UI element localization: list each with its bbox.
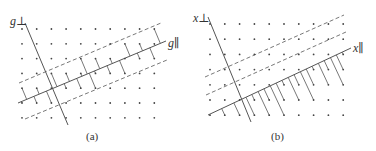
- projection-connector: [37, 88, 39, 94]
- lattice-point: [298, 38, 300, 40]
- lattice-point: [36, 28, 38, 30]
- projection-connector: [270, 86, 284, 115]
- lattice-point: [342, 54, 344, 56]
- lattice-point: [21, 58, 23, 60]
- panel-a-perp-axis-label: g⊥: [10, 14, 27, 28]
- lattice-point: [239, 23, 241, 25]
- projection-connector: [51, 73, 57, 86]
- lattice-point: [51, 102, 53, 104]
- lattice-point: [51, 73, 53, 75]
- panel-b-perp-axis-label: x⊥: [192, 11, 210, 25]
- lattice-point: [36, 102, 38, 104]
- lattice-point: [239, 84, 241, 86]
- lattice-point: [95, 73, 97, 75]
- perpendicular-axis: [208, 17, 251, 122]
- lattice-point: [328, 23, 330, 25]
- lattice-point: [139, 87, 141, 89]
- lattice-point: [313, 114, 315, 116]
- panel-b-par-axis-label: x∥: [352, 41, 364, 55]
- band-boundary-line: [205, 15, 344, 77]
- panel-a: [18, 23, 167, 125]
- lattice-point: [109, 28, 111, 30]
- lattice-point: [124, 102, 126, 104]
- lattice-point: [283, 84, 285, 86]
- lattice-point: [95, 58, 97, 60]
- lattice-point: [328, 69, 330, 71]
- lattice-point: [153, 87, 155, 89]
- lattice-point: [80, 58, 82, 60]
- lattice-point: [65, 43, 67, 45]
- lattice-point: [298, 99, 300, 101]
- lattice-point: [80, 43, 82, 45]
- lattice-point: [224, 54, 226, 56]
- lattice-point: [313, 38, 315, 40]
- lattice-point: [239, 69, 241, 71]
- lattice-point: [124, 58, 126, 60]
- lattice-point: [298, 23, 300, 25]
- lattice-point: [21, 73, 23, 75]
- panel-a-par-axis-label: g∥: [168, 36, 180, 50]
- lattice-point: [283, 23, 285, 25]
- lattice-point: [124, 28, 126, 30]
- lattice-point: [153, 28, 155, 30]
- lattice-point: [109, 73, 111, 75]
- lattice-point: [268, 84, 270, 86]
- lattice-point: [80, 87, 82, 89]
- lattice-point: [239, 114, 241, 116]
- lattice-point: [21, 102, 23, 104]
- panel-b: [205, 15, 351, 122]
- lattice-point: [283, 54, 285, 56]
- lattice-point: [224, 84, 226, 86]
- lattice-point: [21, 43, 23, 45]
- lattice-point: [283, 38, 285, 40]
- lattice-point: [124, 87, 126, 89]
- projection-connector: [264, 89, 269, 100]
- panel-a-caption: (a): [86, 130, 99, 143]
- lattice-point: [239, 99, 241, 101]
- lattice-point: [109, 87, 111, 89]
- lattice-point: [254, 69, 256, 71]
- projection-connector: [140, 44, 143, 51]
- lattice-point: [139, 43, 141, 45]
- lattice-point: [124, 73, 126, 75]
- projection-connector: [252, 94, 255, 100]
- figure: g⊥ g∥ (a) x⊥ x∥ (b): [0, 0, 376, 151]
- lattice-point: [139, 58, 141, 60]
- lattice-point: [283, 69, 285, 71]
- lattice-point: [254, 114, 256, 116]
- lattice-point: [36, 43, 38, 45]
- lattice-point: [283, 114, 285, 116]
- lattice-point: [153, 43, 155, 45]
- lattice-point: [239, 54, 241, 56]
- lattice-point: [342, 84, 344, 86]
- band-boundary-line: [25, 60, 167, 119]
- lattice-point: [209, 69, 211, 71]
- lattice-point: [254, 84, 256, 86]
- lattice-point: [21, 117, 23, 119]
- lattice-point: [51, 58, 53, 60]
- projection-connector: [258, 92, 269, 116]
- lattice-point: [153, 58, 155, 60]
- lattice-point: [109, 43, 111, 45]
- projection-connector: [34, 96, 37, 103]
- lattice-point: [95, 43, 97, 45]
- lattice-point: [21, 87, 23, 89]
- lattice-point: [328, 84, 330, 86]
- lattice-point: [328, 99, 330, 101]
- lattice-point: [209, 99, 211, 101]
- lattice-point: [268, 69, 270, 71]
- lattice-point: [239, 38, 241, 40]
- projection-connector: [234, 103, 240, 115]
- projection-connector: [222, 109, 225, 116]
- lattice-point: [298, 114, 300, 116]
- projection-connector: [154, 29, 160, 43]
- lattice-point: [139, 28, 141, 30]
- lattice-point: [95, 28, 97, 30]
- lattice-point: [328, 38, 330, 40]
- lattice-point: [224, 99, 226, 101]
- projection-connector: [330, 58, 343, 85]
- projection-connector: [150, 48, 155, 59]
- projection-connector: [119, 60, 124, 73]
- lattice-point: [209, 84, 211, 86]
- lattice-point: [342, 99, 344, 101]
